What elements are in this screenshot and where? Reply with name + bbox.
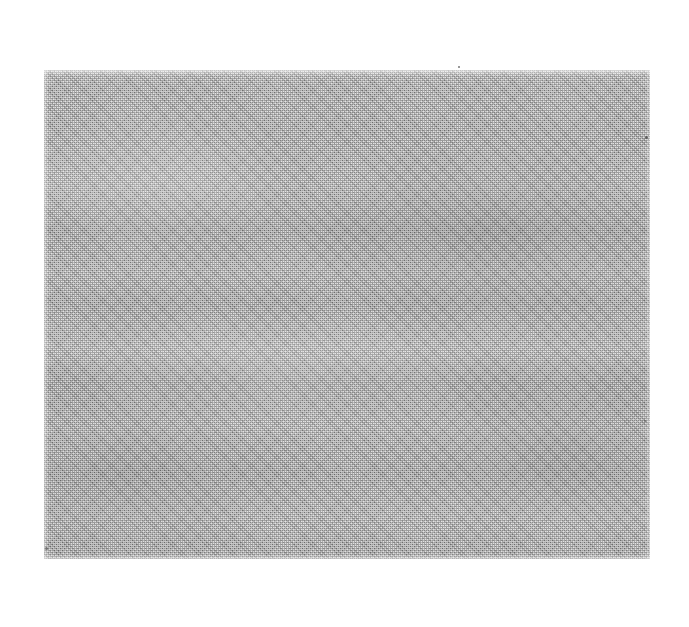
scan-speck-icon — [45, 547, 48, 550]
scanned-gray-plate — [44, 70, 650, 559]
scan-speck-icon — [644, 420, 646, 422]
scan-speck-icon — [458, 66, 460, 68]
scan-speck-icon — [645, 136, 648, 139]
plate-edge-feather — [44, 70, 650, 559]
page-canvas — [0, 0, 689, 627]
